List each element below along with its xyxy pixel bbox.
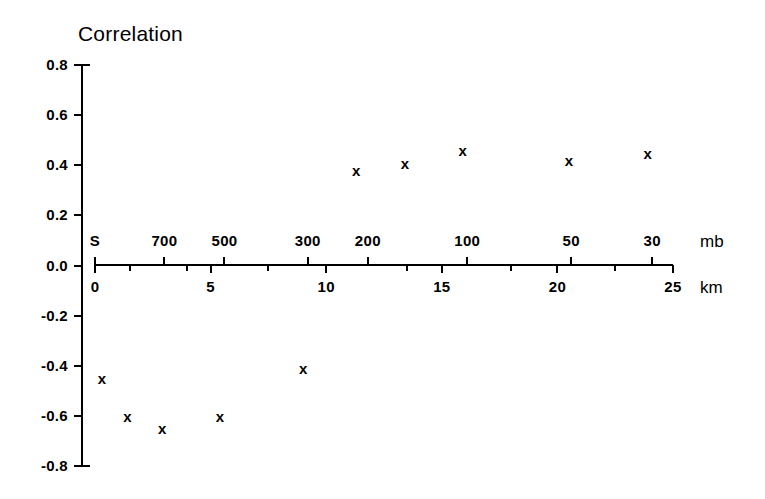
y-axis-bottom-cap — [81, 465, 90, 467]
km-axis-tick — [672, 265, 674, 273]
y-axis-tick-label: -0.8 — [6, 457, 68, 474]
km-axis-minor-tick — [186, 265, 188, 271]
y-axis-tick-label: 0.8 — [6, 56, 68, 73]
mb-axis-tick — [651, 257, 653, 265]
km-axis-tick — [325, 265, 327, 273]
mb-axis-tick-label: 100 — [454, 232, 480, 249]
data-point-marker: x — [352, 163, 360, 178]
mb-axis-tick-label: 30 — [644, 232, 661, 249]
data-point-marker: x — [98, 371, 106, 386]
km-axis-title: km — [700, 278, 723, 298]
y-axis-tick — [74, 465, 82, 467]
y-axis-tick-label: -0.2 — [6, 307, 68, 324]
y-axis-tick — [74, 164, 82, 166]
km-axis-tick — [556, 265, 558, 273]
x-axis-line — [94, 264, 673, 266]
mb-axis-tick — [163, 257, 165, 265]
data-point-marker: x — [458, 143, 466, 158]
y-axis-tick — [74, 365, 82, 367]
y-axis-tick-label: -0.6 — [6, 407, 68, 424]
mb-axis-title: mb — [700, 232, 724, 252]
km-axis-tick — [94, 265, 96, 273]
km-axis-minor-tick — [129, 265, 131, 271]
y-axis-tick-label: 0.4 — [6, 156, 68, 173]
mb-axis-tick — [223, 257, 225, 265]
y-axis-tick — [74, 214, 82, 216]
km-axis-tick-label: 25 — [664, 278, 681, 295]
mb-axis-tick-label: 500 — [212, 232, 238, 249]
km-axis-tick-label: 10 — [318, 278, 335, 295]
correlation-scatter-figure: Correlation 0.80.60.40.20.0-0.2-0.4-0.6-… — [0, 0, 765, 499]
data-point-marker: x — [565, 153, 573, 168]
mb-axis-tick — [570, 257, 572, 265]
mb-axis-tick-label: S — [90, 232, 100, 249]
mb-axis-tick-label: 50 — [563, 232, 580, 249]
y-axis-tick-label: 0.6 — [6, 106, 68, 123]
mb-axis-tick-label: 700 — [151, 232, 177, 249]
km-axis-tick-label: 5 — [206, 278, 215, 295]
km-axis-minor-tick — [406, 265, 408, 271]
y-axis-top-cap — [81, 64, 90, 66]
km-axis-tick-label: 15 — [433, 278, 450, 295]
mb-axis-tick — [94, 257, 96, 265]
km-axis-tick-label: 20 — [549, 278, 566, 295]
km-axis-tick-label: 0 — [91, 278, 100, 295]
page-title: Correlation — [78, 22, 183, 46]
mb-axis-tick — [367, 257, 369, 265]
mb-axis-tick-label: 200 — [355, 232, 381, 249]
data-point-marker: x — [643, 145, 651, 160]
y-axis-tick — [74, 114, 82, 116]
data-point-marker: x — [299, 361, 307, 376]
data-point-marker: x — [158, 421, 166, 436]
y-axis-tick-label: 0.2 — [6, 206, 68, 223]
km-axis-minor-tick — [614, 265, 616, 271]
y-axis-tick — [74, 415, 82, 417]
y-axis-tick — [74, 315, 82, 317]
km-axis-tick — [210, 265, 212, 273]
km-axis-minor-tick — [510, 265, 512, 271]
data-point-marker: x — [216, 408, 224, 423]
data-point-marker: x — [123, 408, 131, 423]
y-axis-tick — [74, 64, 82, 66]
mb-axis-tick — [466, 257, 468, 265]
mb-axis-tick — [307, 257, 309, 265]
y-axis-tick — [74, 265, 82, 267]
y-axis-tick-label: -0.4 — [6, 357, 68, 374]
mb-axis-tick-label: 300 — [295, 232, 321, 249]
y-axis-tick-label: 0.0 — [6, 257, 68, 274]
km-axis-minor-tick — [267, 265, 269, 271]
km-axis-tick — [441, 265, 443, 273]
data-point-marker: x — [401, 155, 409, 170]
